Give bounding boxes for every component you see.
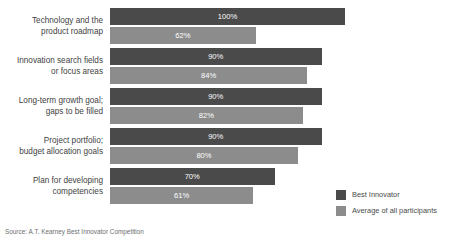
category-label-line: gaps to be filled (0, 107, 103, 118)
legend-label: Average of all participants (352, 206, 437, 216)
category-label-line: competencies (0, 187, 103, 198)
bar-pair: 90%80% (110, 128, 451, 166)
category-label-line: Plan for developing (0, 176, 103, 187)
legend-item: Best Innovator (336, 190, 451, 200)
bar: 62% (110, 27, 451, 44)
bar-value-label: 62% (110, 27, 256, 44)
category-label: Technology and theproduct roadmap (0, 16, 103, 37)
chart-legend: Best InnovatorAverage of all participant… (336, 190, 451, 222)
plot-area: Technology and theproduct roadmap100%62%… (0, 8, 451, 214)
category-label: Long-term growth goal;gaps to be filled (0, 96, 103, 117)
bar-value-label: 84% (110, 67, 307, 84)
bar: 80% (110, 147, 451, 164)
category-label: Innovation search fieldsor focus areas (0, 56, 103, 77)
bar-value-label: 82% (110, 107, 303, 124)
category-label-line: Long-term growth goal; (0, 96, 103, 107)
bar: 100% (110, 8, 451, 25)
bar: 90% (110, 128, 451, 145)
bar: 70% (110, 168, 451, 185)
legend-swatch (336, 190, 346, 200)
category-label-line: or focus areas (0, 67, 103, 78)
bar: 82% (110, 107, 451, 124)
bar-value-label: 61% (110, 187, 253, 204)
bar-value-label: 100% (110, 8, 345, 25)
category-label-line: budget allocation goals (0, 147, 103, 158)
bar-pair: 100%62% (110, 8, 451, 46)
category-label-line: product roadmap (0, 27, 103, 38)
category-label: Project portfolio;budget allocation goal… (0, 136, 103, 157)
bar-value-label: 90% (110, 88, 322, 105)
bar: 90% (110, 88, 451, 105)
bar-pair: 90%82% (110, 88, 451, 126)
legend-swatch (336, 206, 346, 216)
legend-label: Best Innovator (352, 190, 400, 200)
category-label-line: Project portfolio; (0, 136, 103, 147)
bar-value-label: 80% (110, 147, 298, 164)
bar-value-label: 90% (110, 128, 322, 145)
bar: 90% (110, 48, 451, 65)
category-label-line: Technology and the (0, 16, 103, 27)
bar-value-label: 90% (110, 48, 322, 65)
bar: 84% (110, 67, 451, 84)
legend-item: Average of all participants (336, 206, 451, 216)
bar-pair: 90%84% (110, 48, 451, 86)
category-label: Plan for developingcompetencies (0, 176, 103, 197)
bar-value-label: 70% (110, 168, 275, 185)
source-note: Source: A.T. Kearney Best Innovator Comp… (5, 228, 144, 236)
cropped-heading-remnant (4, 0, 184, 7)
bar-chart: Technology and theproduct roadmap100%62%… (0, 0, 451, 240)
category-label-line: Innovation search fields (0, 56, 103, 67)
